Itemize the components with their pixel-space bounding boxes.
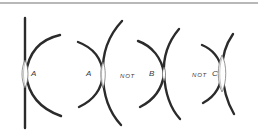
panel-3: [138, 29, 180, 119]
label-panel-3: B: [149, 70, 155, 78]
label-panel-2: A: [86, 70, 92, 78]
label-panel-4: C: [212, 70, 218, 78]
label-prefix-panel-3: NOT: [120, 72, 135, 80]
label-panel-1: A: [31, 70, 37, 78]
right-arc: [164, 29, 180, 119]
contact-diagram: [0, 0, 258, 137]
panel-2: [78, 21, 122, 125]
contact-lens-3: [163, 67, 166, 81]
label-prefix-panel-4: NOT: [192, 71, 207, 79]
